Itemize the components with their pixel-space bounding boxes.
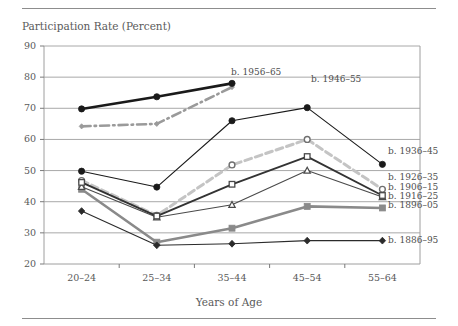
data-point-marker [304,105,310,111]
y-tick-label: 30 [14,227,36,238]
x-tick-label: 35–44 [202,272,262,283]
y-tick-label: 20 [14,258,36,269]
y-tick-label: 80 [14,71,36,82]
series-line [82,189,383,242]
series-label: b. 1956–65 [231,67,281,77]
chart-figure: Participation Rate (Percent) 20304050607… [0,0,458,326]
x-tick-label: 20–24 [52,272,112,283]
data-point-marker [154,184,160,190]
y-tick-label: 70 [14,102,36,113]
series-label: b. 1946–55 [311,74,361,84]
y-tick-label: 50 [14,165,36,176]
data-point-marker [379,205,385,211]
data-point-marker [229,118,235,124]
data-point-marker [229,240,235,247]
data-point-marker [79,106,85,112]
data-point-marker [304,237,310,244]
data-point-marker [380,193,386,199]
data-point-marker [229,162,235,168]
data-point-marker [379,237,385,244]
data-point-marker [78,208,84,215]
data-point-marker [154,213,160,219]
data-point-marker [229,225,235,231]
y-tick-label: 90 [14,40,36,51]
data-point-marker [304,137,310,143]
series-line [82,87,232,126]
data-point-marker [154,94,160,100]
data-point-marker [304,167,310,173]
x-tick-label: 55–64 [352,272,412,283]
y-tick-label: 40 [14,196,36,207]
data-point-marker [229,181,235,187]
data-point-marker [79,180,85,186]
y-tick-label: 60 [14,133,36,144]
data-point-marker [79,124,84,129]
data-point-marker [304,154,310,160]
data-point-marker [304,203,310,209]
data-point-marker [79,168,85,174]
data-point-marker [229,80,235,86]
x-axis-title: Years of Age [0,296,458,308]
x-tick-label: 25–34 [127,272,187,283]
series-label: b. 1936–45 [388,146,438,156]
x-tick-label: 45–54 [277,272,337,283]
data-point-marker [229,201,235,207]
series-line [82,171,383,218]
series-label: b. 1896–05 [388,200,438,210]
data-point-marker [379,161,385,167]
data-point-marker [380,186,386,192]
series-label: b. 1926–35 [388,172,438,182]
series-label: b. 1886–95 [388,235,438,245]
